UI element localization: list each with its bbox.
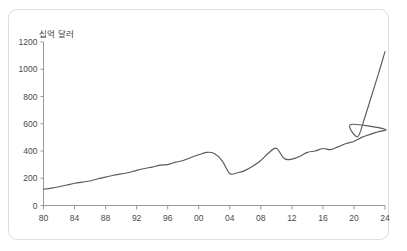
x-tick-label: 92 (132, 213, 142, 223)
y-tick-group: 020040060080010001200 (19, 37, 44, 211)
y-tick-label: 600 (23, 119, 37, 129)
y-tick-label: 0 (33, 201, 38, 211)
x-axis: 808488929600040812162024 (39, 206, 390, 223)
x-tick-label: 04 (225, 213, 235, 223)
y-tick-label: 400 (23, 146, 37, 156)
x-tick-label: 24 (380, 213, 390, 223)
y-tick-label: 1200 (19, 37, 38, 47)
y-tick-label: 200 (23, 173, 37, 183)
y-tick-label: 1000 (19, 64, 38, 74)
x-tick-label: 84 (70, 213, 80, 223)
x-tick-label: 16 (318, 213, 328, 223)
x-tick-label: 12 (287, 213, 297, 223)
y-axis: 020040060080010001200 (19, 37, 44, 211)
x-tick-label: 80 (39, 213, 49, 223)
data-series-line (44, 52, 387, 190)
x-tick-label: 88 (101, 213, 111, 223)
y-tick-label: 800 (23, 92, 37, 102)
x-tick-label: 00 (194, 213, 204, 223)
x-tick-label: 96 (163, 213, 173, 223)
x-tick-group: 808488929600040812162024 (39, 206, 390, 223)
line-chart: 020040060080010001200 808488929600040812… (0, 0, 407, 251)
x-tick-label: 08 (256, 213, 266, 223)
x-tick-label: 20 (349, 213, 359, 223)
